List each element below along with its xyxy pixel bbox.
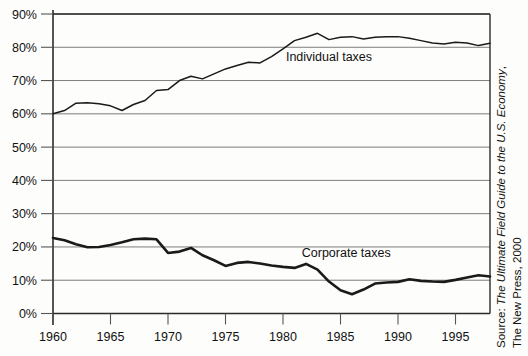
source-title: The Ultimate Field Guide to the U.S. Eco… [495, 68, 507, 305]
y-tick-label-20: 20% [12, 240, 37, 254]
x-tick-label-1980: 1980 [269, 330, 297, 344]
annotation-corporate-taxes: Corporate taxes [302, 246, 391, 260]
source-comma: , [495, 66, 507, 69]
y-tick-label-60: 60% [12, 107, 37, 121]
source-prefix: Source: [495, 305, 507, 348]
tax-share-line-chart: 0%10%20%30%40%50%60%70%80%90% 1960196519… [0, 0, 528, 356]
chart-background [0, 0, 528, 356]
y-tick-label-50: 50% [12, 141, 37, 155]
y-tick-label-40: 40% [12, 174, 37, 188]
y-tick-label-0: 0% [19, 307, 37, 321]
x-tick-label-1970: 1970 [154, 330, 182, 344]
x-tick-label-1990: 1990 [384, 330, 412, 344]
x-tick-label-1960: 1960 [39, 330, 67, 344]
x-tick-label-1965: 1965 [97, 330, 125, 344]
x-tick-label-1975: 1975 [212, 330, 240, 344]
annotation-individual-taxes: Individual taxes [286, 50, 372, 64]
source-credit-line-1: Source: The Ultimate Field Guide to the … [495, 66, 507, 348]
chart-figure: 0%10%20%30%40%50%60%70%80%90% 1960196519… [0, 0, 528, 356]
x-tick-label-1985: 1985 [327, 330, 355, 344]
y-tick-label-90: 90% [12, 8, 37, 22]
y-tick-label-80: 80% [12, 41, 37, 55]
x-tick-label-1995: 1995 [442, 330, 470, 344]
y-tick-label-30: 30% [12, 207, 37, 221]
y-tick-label-10: 10% [12, 274, 37, 288]
source-credit-line-2: The New Press, 2000 [511, 237, 523, 348]
y-tick-label-70: 70% [12, 74, 37, 88]
